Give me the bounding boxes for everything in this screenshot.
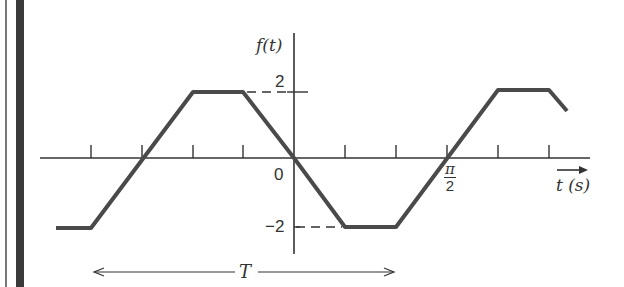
x-axis-label: t (s) xyxy=(556,177,590,194)
waveform-line xyxy=(56,90,567,228)
y-tick-label-2: 2 xyxy=(275,73,284,90)
x-ticks xyxy=(91,145,549,158)
pi-half-numerator: π xyxy=(444,162,456,178)
y-axis-label: f(t) xyxy=(256,37,282,54)
origin-label: 0 xyxy=(274,166,283,183)
period-label: T xyxy=(239,263,251,281)
t-arrowhead-icon xyxy=(579,166,588,174)
waveform-plot xyxy=(0,0,624,287)
y-tick-label-neg2: −2 xyxy=(265,218,284,235)
pi-half-denominator: 2 xyxy=(444,178,456,194)
pi-half-label: π 2 xyxy=(444,162,456,194)
